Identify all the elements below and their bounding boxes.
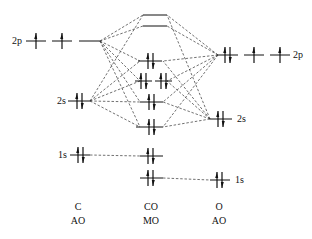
c-atom-caption: C AO	[63, 201, 93, 227]
o-1s-orbital	[210, 172, 230, 188]
o-ao-caption: AO	[204, 215, 234, 227]
c-1s-orbital	[70, 147, 90, 163]
c-name: C	[63, 201, 93, 213]
co-mo-caption: MO	[136, 215, 166, 227]
c-2s-orbital	[68, 93, 90, 109]
o-atom-caption: O AO	[204, 201, 234, 227]
o-2s-label: 2s	[237, 114, 246, 124]
o-name: O	[204, 201, 234, 213]
c-2p-orbitals	[26, 33, 100, 49]
o-2s-orbital	[210, 111, 232, 127]
c-1s-label: 1s	[58, 150, 67, 160]
c-2p-label: 2p	[12, 36, 22, 46]
o-1s-label: 1s	[235, 175, 244, 185]
c-2s-label: 2s	[57, 96, 66, 106]
co-name: CO	[136, 201, 166, 213]
co-molecule-caption: CO MO	[136, 201, 166, 227]
c-ao-caption: AO	[63, 215, 93, 227]
mo-levels	[135, 15, 172, 186]
o-2p-orbitals	[218, 47, 290, 63]
o-2p-label: 2p	[293, 50, 303, 60]
